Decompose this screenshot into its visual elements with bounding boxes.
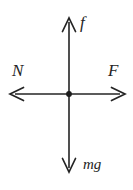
- diagram-vector-graphic: [0, 0, 133, 190]
- free-body-diagram: f N F mg: [0, 0, 133, 190]
- weight-label: mg: [83, 157, 101, 172]
- friction-label: f: [80, 14, 85, 31]
- normal-force-label: N: [12, 62, 23, 79]
- origin-dot: [66, 91, 72, 97]
- applied-force-label: F: [108, 62, 118, 79]
